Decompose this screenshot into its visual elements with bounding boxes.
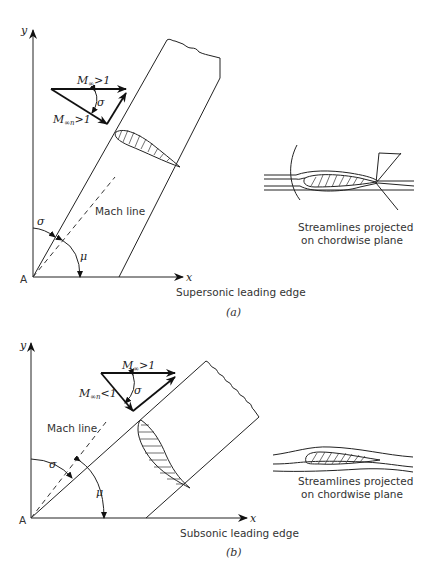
airfoil-section (115, 130, 180, 167)
x-axis-label: x (186, 271, 193, 284)
mach-line-label: Mach line (47, 422, 97, 434)
y-axis-label: y (20, 24, 28, 37)
x-axis-label: x (250, 512, 257, 525)
mu-angle-arc (62, 240, 80, 277)
wing-strip (31, 361, 259, 518)
streamlines-caption-line1: Streamlines projected (298, 475, 413, 487)
figure-a: y x A Mach line (20, 24, 414, 319)
wing-strip (33, 39, 220, 277)
figure-b: y x A Ma (19, 339, 413, 559)
mach-line (31, 422, 106, 518)
y-axis-label: y (19, 339, 27, 352)
streamlines-caption-line1: Streamlines projected (298, 221, 413, 233)
freestream-mach-label: M∞>1 (76, 74, 110, 88)
airfoil-section (138, 420, 190, 488)
normal-mach-label: M∞n<1 (78, 387, 117, 401)
origin-label: A (19, 514, 27, 526)
streamlines-caption-line2: on chordwise plane (301, 234, 403, 246)
panel-label: (b) (226, 546, 242, 559)
origin-label: A (20, 273, 28, 285)
sigma-angle-label: σ (37, 215, 45, 228)
leading-edge-label: Supersonic leading edge (176, 286, 306, 298)
sigma-vector-angle: σ (97, 96, 105, 109)
normal-mach-label: M∞n>1 (52, 113, 91, 127)
streamlines-caption-line2: on chordwise plane (301, 488, 403, 500)
sigma-vector-angle: σ (134, 384, 142, 397)
streamlines-inset (273, 447, 413, 472)
mu-angle-label: μ (80, 250, 87, 263)
panel-label: (a) (226, 306, 241, 319)
streamlines-inset (264, 145, 414, 210)
sigma-angle-arc (33, 228, 55, 237)
sigma-angle-label: σ (49, 458, 57, 471)
swept-wing-diagram: y x A Mach line (0, 0, 435, 565)
mu-angle-label: μ (96, 486, 103, 499)
leading-edge-label: Subsonic leading edge (180, 527, 299, 539)
mach-line-label: Mach line (95, 205, 145, 217)
mach-line (33, 177, 115, 277)
freestream-mach-label: M∞>1 (121, 359, 155, 373)
